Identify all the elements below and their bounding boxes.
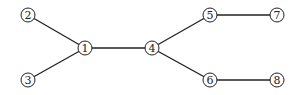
node-7: 7	[270, 8, 284, 22]
node-4: 4	[145, 41, 159, 55]
node-label: 1	[82, 42, 89, 55]
node-label: 4	[149, 42, 156, 55]
edge-2-1	[28, 15, 85, 48]
edge-4-5	[152, 15, 210, 48]
node-label: 2	[25, 9, 32, 22]
node-3: 3	[21, 73, 35, 87]
edge-4-6	[152, 48, 210, 80]
node-5: 5	[203, 8, 217, 22]
node-label: 6	[207, 74, 214, 87]
node-label: 5	[207, 9, 214, 22]
node-label: 8	[274, 74, 281, 87]
node-2: 2	[21, 8, 35, 22]
node-label: 3	[25, 74, 32, 87]
node-label: 7	[274, 9, 281, 22]
nodes-group: 12345678	[21, 8, 284, 87]
node-1: 1	[78, 41, 92, 55]
edge-3-1	[28, 48, 85, 80]
node-6: 6	[203, 73, 217, 87]
graph-diagram: 12345678	[0, 0, 301, 95]
node-8: 8	[270, 73, 284, 87]
